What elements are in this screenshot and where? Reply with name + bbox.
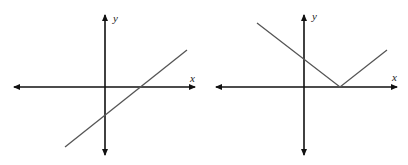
x-axis-label: x — [189, 72, 195, 84]
y-axis-label: y — [112, 12, 118, 24]
x-axis-label: x — [391, 71, 397, 83]
v-shape-line — [257, 23, 387, 87]
linear-graph: y x — [14, 12, 195, 155]
figure: y x y x — [0, 0, 408, 165]
absolute-value-graph: y x — [216, 10, 397, 155]
linear-line — [65, 50, 187, 147]
y-axis-label: y — [311, 10, 317, 22]
